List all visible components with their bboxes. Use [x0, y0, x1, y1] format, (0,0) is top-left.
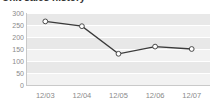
data-point-marker[interactable] [189, 47, 194, 52]
y-axis-tick-label: 200 [0, 34, 24, 41]
data-point-marker[interactable] [43, 19, 48, 24]
data-point-marker[interactable] [116, 51, 121, 56]
y-axis-tick-label: 300 [0, 10, 24, 17]
y-axis-tick-label: 250 [0, 22, 24, 29]
x-axis-tick-label: 12/04 [62, 92, 102, 100]
plot-area [27, 13, 210, 85]
x-axis-line [26, 85, 210, 86]
chart-title: Unit sales history [2, 0, 218, 4]
y-axis-tick-label: 0 [0, 82, 24, 89]
x-axis-tick-label: 12/05 [99, 92, 139, 100]
y-axis-tick-label: 100 [0, 58, 24, 65]
x-axis-tick-label: 12/07 [172, 92, 212, 100]
data-point-marker[interactable] [80, 24, 85, 29]
chart-screenshot: Unit sales history 300250200150100500 12… [0, 0, 220, 106]
y-axis-tick-label: 50 [0, 70, 24, 77]
x-axis-tick-label: 12/06 [135, 92, 175, 100]
data-point-marker[interactable] [153, 44, 158, 49]
x-axis-tick-label: 12/03 [25, 92, 65, 100]
y-axis-tick-label: 150 [0, 46, 24, 53]
line-series [27, 13, 210, 85]
series-polyline [45, 21, 191, 53]
y-axis-tick-labels: 300250200150100500 [0, 0, 24, 106]
